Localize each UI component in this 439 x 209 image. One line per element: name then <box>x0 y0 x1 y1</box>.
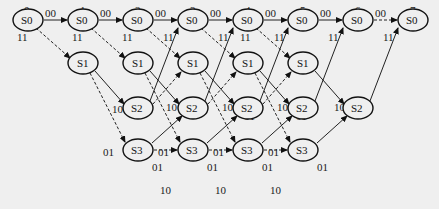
node-s3-t5: S3 <box>288 139 318 161</box>
edge-label-00: 00 <box>320 7 332 19</box>
svg-text:S0: S0 <box>351 14 363 26</box>
node-s1-t5: S1 <box>288 52 318 74</box>
node-s2-t6: S2 <box>343 97 373 119</box>
svg-text:S1: S1 <box>187 57 199 69</box>
node-s0-t7: S0 <box>398 9 428 31</box>
trellis-svg: 0 1 2 3 4 5 6 7 <box>0 0 439 209</box>
edge-label-01: 01 <box>317 161 328 173</box>
edge-label-01: 01 <box>152 161 163 173</box>
edge-label-11: 11 <box>274 31 285 43</box>
svg-text:S1: S1 <box>242 57 254 69</box>
edge-label-00: 00 <box>375 7 387 19</box>
svg-text:S2: S2 <box>351 102 363 114</box>
edge-label-10: 10 <box>112 103 124 115</box>
svg-text:S1: S1 <box>132 57 144 69</box>
edge-label-10: 10 <box>166 101 178 113</box>
node-s2-t5: S2 <box>288 97 318 119</box>
svg-text:S0: S0 <box>76 14 88 26</box>
edge-label-10: 10 <box>222 101 234 113</box>
node-s3-t3: S3 <box>178 139 208 161</box>
node-s0-t5: S0 <box>288 9 318 31</box>
nodes-s1: S1 S1 S1 S1 S1 <box>68 52 318 74</box>
node-s0-t1: S0 <box>68 9 98 31</box>
edge-label-11: 11 <box>328 31 339 43</box>
node-s0-t2: S0 <box>123 9 153 31</box>
svg-text:S0: S0 <box>241 14 253 26</box>
svg-text:S2: S2 <box>186 102 198 114</box>
node-s2-t2: S2 <box>123 97 153 119</box>
edges-s2-s1 <box>153 72 291 104</box>
svg-text:S3: S3 <box>131 144 143 156</box>
edge-label-11: 11 <box>72 31 83 43</box>
edge-label-01: 01 <box>268 146 279 158</box>
edge-label-00: 00 <box>155 7 167 19</box>
svg-text:S3: S3 <box>241 144 253 156</box>
edge-label-11: 11 <box>122 31 133 43</box>
edge-label-01: 01 <box>213 146 224 158</box>
edge-label-11: 11 <box>240 31 251 43</box>
svg-text:S0: S0 <box>296 14 308 26</box>
edge-label-11: 11 <box>218 31 229 43</box>
svg-text:S2: S2 <box>296 102 308 114</box>
node-s0-t0: S0 <box>13 9 43 31</box>
node-s1-t3: S1 <box>178 52 208 74</box>
node-s0-t6: S0 <box>343 9 373 31</box>
svg-text:S1: S1 <box>77 57 89 69</box>
node-s2-t3: S2 <box>178 97 208 119</box>
edge-label-10: 10 <box>277 101 289 113</box>
svg-text:S0: S0 <box>131 14 143 26</box>
node-s0-t4: S0 <box>233 9 263 31</box>
svg-text:S0: S0 <box>21 14 33 26</box>
svg-text:S0: S0 <box>186 14 198 26</box>
edge-label-01: 01 <box>158 146 169 158</box>
node-s2-t4: S2 <box>233 97 263 119</box>
svg-text:S2: S2 <box>131 102 143 114</box>
svg-text:S2: S2 <box>241 102 253 114</box>
node-s0-t3: S0 <box>178 9 208 31</box>
node-s1-t1: S1 <box>68 52 98 74</box>
edge-label-00: 00 <box>100 7 112 19</box>
edge-label-00: 00 <box>265 7 277 19</box>
svg-text:S0: S0 <box>406 14 418 26</box>
edge-label-10: 10 <box>160 184 172 196</box>
edge-label-01: 01 <box>103 146 114 158</box>
svg-text:S3: S3 <box>296 144 308 156</box>
node-s1-t2: S1 <box>123 52 153 74</box>
edge-label-10: 10 <box>215 184 227 196</box>
node-s3-t4: S3 <box>233 139 263 161</box>
node-s1-t4: S1 <box>233 52 263 74</box>
node-s3-t2: S3 <box>123 139 153 161</box>
svg-text:S3: S3 <box>186 144 198 156</box>
edge-label-01: 01 <box>207 161 218 173</box>
edge-label-00: 00 <box>45 7 57 19</box>
edge-label-01: 01 <box>262 161 273 173</box>
edge-label-11: 11 <box>163 31 174 43</box>
edge-label-11: 11 <box>17 31 28 43</box>
edge-label-11: 11 <box>383 31 394 43</box>
trellis-diagram: 0 1 2 3 4 5 6 7 <box>0 0 439 209</box>
edge-label-10: 10 <box>270 184 282 196</box>
edge-label-00: 00 <box>210 7 222 19</box>
svg-text:S1: S1 <box>297 57 309 69</box>
